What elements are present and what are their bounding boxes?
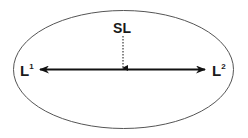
label-l2-superscript: 2 <box>221 62 226 71</box>
label-l2: L2 <box>212 62 226 79</box>
label-l1: L1 <box>20 62 34 79</box>
diagram-canvas: SL L1 L2 <box>0 0 248 138</box>
label-l1-superscript: 1 <box>29 62 34 71</box>
label-l2-main: L <box>212 62 221 79</box>
label-l1-main: L <box>20 62 29 79</box>
label-sl: SL <box>113 20 131 36</box>
